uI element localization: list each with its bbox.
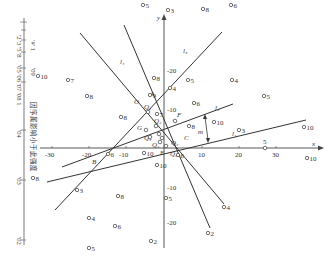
point-value: 9	[153, 92, 157, 100]
point-marker-icon	[119, 115, 122, 118]
point-value: 10	[217, 119, 225, 127]
data-point: 10	[142, 150, 154, 158]
y-axis-label: y	[156, 14, 161, 22]
point-value: 8	[157, 75, 161, 83]
data-point: 5	[141, 2, 149, 10]
lines	[47, 25, 306, 228]
point-label-B: B	[92, 158, 97, 166]
data-points: 1078538684549867510108361061083854642251…	[31, 2, 317, 253]
point-value: 8	[36, 175, 40, 183]
point-marker-icon	[192, 101, 195, 104]
point-label-E: E	[159, 149, 165, 157]
point-label-F: F	[176, 111, 182, 119]
data-point: 2	[149, 238, 157, 246]
data-point: 5	[87, 245, 95, 253]
scale-tick-02: '02	[16, 237, 23, 245]
point-value: 6	[197, 100, 201, 108]
point-marker-icon	[187, 124, 190, 127]
data-point: 8	[201, 6, 209, 14]
data-point: 10	[155, 162, 167, 170]
point-marker-icon	[113, 224, 116, 227]
point-marker-icon	[229, 3, 232, 6]
scale-tick-04: '04	[16, 130, 23, 138]
data-point: 10	[36, 73, 48, 81]
point-marker-icon	[237, 128, 240, 131]
point-value: 8	[206, 6, 210, 14]
point-value: 5	[267, 93, 271, 101]
point-value: 10	[307, 124, 315, 132]
scale-bar: '2 '3 '5 '8 '05 '06 '07 '08 1 '04 '03 '0…	[16, 18, 38, 245]
point-marker-icon	[141, 3, 144, 6]
center-label-Q1: Q₁	[144, 103, 152, 111]
point-marker-icon	[36, 74, 39, 77]
point-value: 6	[118, 223, 122, 231]
point-marker-icon	[186, 78, 189, 81]
data-point: 3	[166, 7, 174, 15]
point-value: 4	[227, 204, 231, 212]
point-marker-icon	[148, 93, 151, 96]
x-tick-20: 20	[235, 151, 243, 159]
data-point: 2	[206, 230, 214, 238]
point-marker-icon	[106, 152, 109, 155]
point-value: 2	[211, 230, 215, 238]
point-value: 10	[147, 150, 155, 158]
point-marker-icon	[230, 78, 233, 81]
center-label-Q5: Q₅	[171, 139, 179, 147]
point-label-G: G	[137, 124, 142, 132]
point-marker-icon	[149, 239, 152, 242]
data-point: 7	[66, 77, 74, 85]
x-tick--30: -30	[45, 151, 55, 159]
point-value: 2	[154, 238, 158, 246]
data-point: 5	[186, 77, 194, 85]
distance-marker: m	[198, 114, 210, 143]
point-value: 6	[234, 2, 238, 10]
point-marker-icon	[305, 156, 308, 159]
point-marker-icon	[116, 194, 119, 197]
data-point: 4	[168, 85, 176, 93]
diagram-canvas: '2 '3 '5 '8 '05 '06 '07 '08 1 '04 '03 '0…	[0, 0, 331, 265]
data-point: 8	[152, 75, 160, 83]
scale-ticks-mid: '05 '06 '07 '08 1	[16, 65, 23, 105]
point-label-C: C	[184, 134, 189, 142]
data-point: 10	[212, 119, 224, 127]
data-point: 4	[230, 77, 238, 85]
point-value: 7	[71, 77, 75, 85]
point-value: 3	[242, 127, 246, 135]
data-point: 10	[305, 155, 317, 163]
line-l4	[80, 33, 224, 204]
point-value: 10	[160, 162, 168, 170]
point-marker-icon	[168, 86, 171, 89]
point-marker-icon	[155, 112, 158, 115]
scale-unit: ′#′ 1	[30, 40, 37, 51]
point-value: 5	[191, 77, 195, 85]
data-point: 8	[31, 175, 39, 183]
x-tick--10: -10	[119, 151, 129, 159]
point-marker-icon	[85, 94, 88, 97]
y-tick-upper-20: -20	[167, 67, 177, 75]
point-value: 6	[181, 152, 185, 160]
point-value: 8	[192, 123, 196, 131]
data-point: 8	[85, 93, 93, 101]
point-marker-icon	[206, 231, 209, 234]
point-label-O: O	[134, 98, 139, 106]
data-point: 6	[113, 223, 121, 231]
point-value: 6	[111, 151, 115, 159]
y-tick-lower-10: -10	[167, 184, 177, 192]
data-point: 8	[116, 193, 124, 201]
data-point: 6	[229, 2, 237, 10]
point-marker-icon	[176, 153, 179, 156]
point-value: 8	[90, 93, 94, 101]
data-point: 5	[262, 93, 270, 101]
point-marker-icon	[212, 120, 215, 123]
point-marker-icon	[201, 7, 204, 10]
data-point: 6	[192, 100, 200, 108]
point-marker-icon	[66, 78, 69, 81]
point-value: 4	[173, 85, 177, 93]
point-marker-icon	[75, 188, 78, 191]
point-marker-icon	[142, 151, 145, 154]
x-axis-label: x	[311, 140, 316, 148]
point-value: 5	[169, 195, 173, 203]
point-value: 3	[171, 7, 175, 15]
point-value: 8	[121, 193, 125, 201]
point-value: 4	[92, 215, 96, 223]
